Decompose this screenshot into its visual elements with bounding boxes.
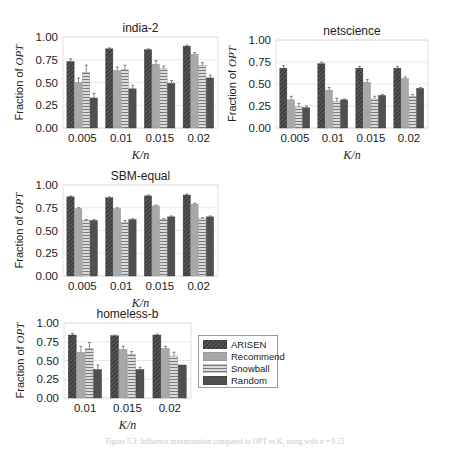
y-tick-label: 0.50 bbox=[37, 355, 59, 367]
bar-random bbox=[94, 370, 102, 399]
y-tick-label: 0.25 bbox=[37, 373, 59, 385]
figure-caption: Figure 5.3: Influence maximization compa… bbox=[0, 437, 450, 446]
bar-arisen bbox=[153, 335, 161, 398]
bar-snowball bbox=[85, 349, 93, 399]
y-tick-label: 0.75 bbox=[37, 336, 59, 348]
legend-swatch-light-icon bbox=[203, 352, 227, 361]
bar-recommend bbox=[119, 349, 127, 398]
legend-item-random: Random bbox=[203, 375, 267, 386]
legend-label: Random bbox=[231, 375, 267, 386]
legend-item-snowball: Snowball bbox=[203, 363, 270, 374]
bar-recommend bbox=[77, 352, 85, 398]
bar-arisen bbox=[111, 336, 119, 398]
legend-swatch-striped-icon bbox=[203, 364, 227, 373]
bar-recommend bbox=[161, 349, 169, 399]
x-axis-label: K/n bbox=[118, 418, 136, 432]
bar-snowball bbox=[170, 356, 178, 398]
bar-arisen bbox=[68, 335, 76, 398]
legend-swatch-dark-icon bbox=[203, 376, 227, 385]
legend-item-arisen: ARISEN bbox=[203, 339, 266, 350]
chart-title: homeless-b bbox=[96, 307, 158, 321]
y-tick-label: 1.00 bbox=[37, 317, 59, 329]
y-axis-label: Fraction of OPT bbox=[14, 322, 26, 399]
y-tick-label: 0.00 bbox=[37, 392, 59, 404]
bar-random bbox=[136, 370, 144, 399]
legend-swatch-hatched-icon bbox=[203, 340, 227, 349]
legend-label: Recommend bbox=[231, 351, 285, 362]
bar-random bbox=[178, 365, 186, 398]
legend-label: Snowball bbox=[231, 363, 270, 374]
x-tick-label: 0.01 bbox=[74, 402, 96, 414]
x-tick-label: 0.015 bbox=[113, 402, 142, 414]
x-tick-label: 0.02 bbox=[159, 402, 181, 414]
legend-label: ARISEN bbox=[231, 339, 266, 350]
legend-item-recommend: Recommend bbox=[203, 351, 285, 362]
chart-legend: ARISEN Recommend Snowball Random bbox=[198, 335, 278, 388]
bar-snowball bbox=[128, 355, 136, 399]
